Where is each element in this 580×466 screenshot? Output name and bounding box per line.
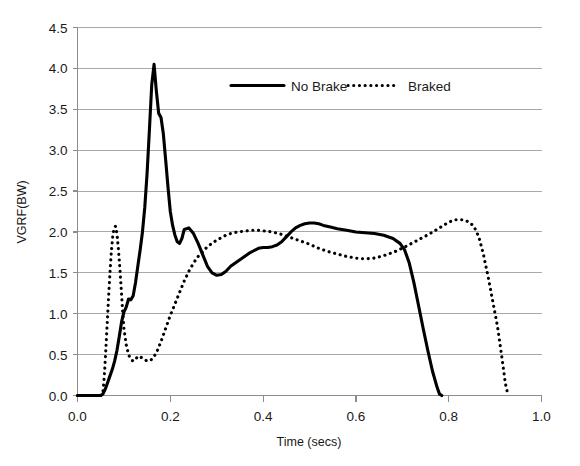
y-tick-label: 0.0 <box>49 389 68 404</box>
y-tick-label: 2.0 <box>49 225 68 240</box>
x-tick-label: 1.0 <box>532 409 551 424</box>
x-tick-label: 0.4 <box>254 409 273 424</box>
y-tick-label: 3.0 <box>49 143 68 158</box>
x-tick-label: 0.8 <box>439 409 458 424</box>
x-tick-labels-group: 0.00.20.40.60.81.0 <box>68 409 551 424</box>
chart-canvas: 0.00.51.01.52.02.53.03.54.04.5 0.00.20.4… <box>0 0 580 466</box>
y-tick-label: 2.5 <box>49 184 68 199</box>
y-tick-label: 1.5 <box>49 266 68 281</box>
y-tick-label: 4.0 <box>49 61 68 76</box>
legend: No BrakeBraked <box>231 79 451 94</box>
chart-figure: 0.00.51.01.52.02.53.03.54.04.5 0.00.20.4… <box>0 0 580 466</box>
x-tick-label: 0.2 <box>161 409 180 424</box>
y-tick-label: 3.5 <box>49 102 68 117</box>
y-axis-title: VGRF(BW) <box>15 180 29 243</box>
y-tick-label: 0.5 <box>49 348 68 363</box>
x-axis-title: Time (secs) <box>277 435 342 449</box>
data-series-group <box>78 64 509 395</box>
y-tick-label: 4.5 <box>49 21 68 36</box>
x-tick-label: 0.0 <box>68 409 87 424</box>
y-tick-label: 1.0 <box>49 307 68 322</box>
legend-label: Braked <box>408 79 451 94</box>
legend-label: No Brake <box>291 79 347 94</box>
y-tick-labels-group: 0.00.51.01.52.02.53.03.54.04.5 <box>49 21 68 404</box>
x-tick-label: 0.6 <box>347 409 366 424</box>
